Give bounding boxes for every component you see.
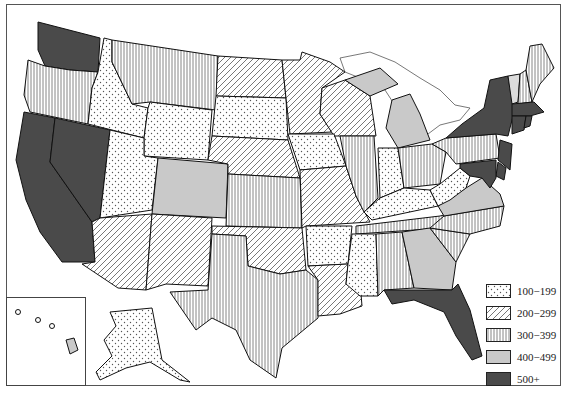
state-KS [226, 174, 302, 228]
vertical-pattern-swatch [486, 328, 511, 342]
state-AR [306, 226, 352, 266]
legend-item-500-plus: 500+ [486, 368, 566, 390]
dots-pattern-swatch [486, 284, 511, 298]
state-AK [96, 308, 190, 382]
legend-label: 200−299 [517, 307, 556, 319]
state-CT [512, 116, 526, 134]
state-CO [152, 158, 228, 218]
legend-item-300-399: 300−399 [486, 324, 566, 346]
hawaii-inset-box [6, 297, 86, 386]
legend-label: 500+ [517, 373, 540, 385]
state-MS [346, 234, 378, 296]
dark-gray-swatch [486, 372, 511, 386]
state-OH [398, 144, 446, 188]
legend-label: 400−499 [517, 351, 556, 363]
diagonal-pattern-swatch [486, 306, 511, 320]
state-IA [288, 134, 346, 170]
legend-item-400-499: 400−499 [486, 346, 566, 368]
state-RI [524, 116, 532, 128]
legend-label: 100−199 [517, 285, 556, 297]
legend-item-100-199: 100−199 [486, 280, 566, 302]
legend-item-200-299: 200−299 [486, 302, 566, 324]
state-NM [146, 214, 212, 290]
state-SD [212, 96, 288, 140]
state-MA [512, 102, 544, 116]
state-WY [144, 102, 212, 160]
state-ME [526, 44, 554, 102]
state-ND [216, 56, 286, 98]
light-gray-swatch [486, 350, 511, 364]
map-legend: 100−199 200−299 300−399 400−499 500+ [486, 280, 566, 390]
state-WA [38, 22, 100, 72]
legend-label: 300−399 [517, 329, 556, 341]
state-FL [384, 284, 482, 360]
